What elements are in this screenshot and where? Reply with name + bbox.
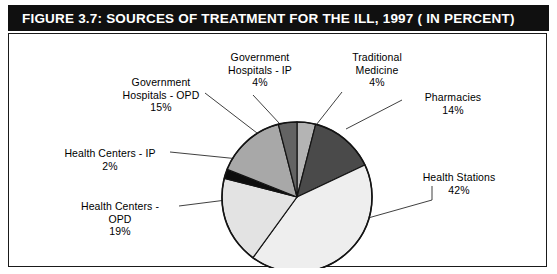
pie-label-health-centers-opd: Health Centers - OPD 19%	[62, 200, 178, 238]
pie-label-traditional-medicine: Traditional Medicine 4%	[329, 51, 425, 89]
pie-label-pharmacies: Pharmacies 14%	[405, 91, 501, 116]
leader-line-health-centers-ip	[170, 152, 239, 159]
leader-line-pharmacies	[346, 100, 402, 129]
figure-title-banner: FIGURE 3.7: SOURCES OF TREATMENT FOR THE…	[8, 5, 549, 31]
pie-label-health-stations: Health Stations 42%	[407, 171, 511, 196]
pie-label-gov-hospitals-ip: Government Hospitals - IP 4%	[208, 51, 312, 89]
chart-frame: Government Hospitals - IP 4% Traditional…	[8, 33, 547, 267]
pie-label-health-centers-ip: Health Centers - IP 2%	[49, 147, 171, 172]
pie-label-gov-hospitals-opd: Government Hospitals - OPD 15%	[109, 76, 213, 114]
figure-container: FIGURE 3.7: SOURCES OF TREATMENT FOR THE…	[0, 0, 557, 274]
page-title: FIGURE 3.7: SOURCES OF TREATMENT FOR THE…	[22, 11, 515, 26]
